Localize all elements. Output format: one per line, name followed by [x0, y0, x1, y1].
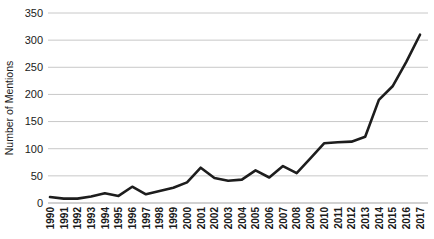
- x-tick-label: 2016: [401, 207, 412, 230]
- x-tick-label: 1994: [100, 207, 111, 230]
- x-tick-label: 2010: [319, 207, 330, 230]
- x-tick-label: 2004: [237, 207, 248, 230]
- data-line-series: [50, 35, 420, 199]
- x-tick-label: 2011: [333, 207, 344, 229]
- x-tick-label: 1996: [127, 207, 138, 230]
- chart-canvas: 0501001502002503003501990199119921993199…: [0, 0, 434, 239]
- y-tick-label: 150: [25, 115, 43, 127]
- x-tick-label: 2002: [209, 207, 220, 230]
- x-tick-label: 2015: [387, 207, 398, 230]
- x-tick-label: 2005: [250, 207, 261, 230]
- x-tick-label: 2013: [360, 207, 371, 230]
- x-tick-label: 1993: [86, 207, 97, 230]
- x-tick-label: 1990: [45, 207, 56, 230]
- x-tick-label: 1992: [72, 207, 83, 230]
- y-axis-title: Number of Mentions: [3, 61, 15, 156]
- x-tick-label: 2017: [415, 207, 426, 230]
- x-tick-label: 2009: [305, 207, 316, 230]
- x-tick-label: 1997: [141, 207, 152, 230]
- x-tick-label: 1995: [113, 207, 124, 230]
- x-tick-label: 2001: [196, 207, 207, 230]
- x-tick-label: 2012: [346, 207, 357, 230]
- mentions-line-chart: 0501001502002503003501990199119921993199…: [0, 0, 434, 239]
- x-tick-label: 2003: [223, 207, 234, 230]
- y-tick-label: 50: [31, 170, 43, 182]
- y-tick-label: 300: [25, 34, 43, 46]
- y-tick-label: 0: [37, 197, 43, 209]
- x-tick-label: 1991: [59, 207, 70, 230]
- x-tick-label: 2014: [374, 207, 385, 230]
- y-tick-label: 250: [25, 61, 43, 73]
- y-tick-label: 350: [25, 7, 43, 19]
- y-tick-label: 100: [25, 143, 43, 155]
- x-tick-label: 1998: [154, 207, 165, 230]
- y-tick-label: 200: [25, 88, 43, 100]
- x-tick-label: 2007: [278, 207, 289, 230]
- x-tick-label: 1999: [168, 207, 179, 230]
- x-tick-label: 2006: [264, 207, 275, 230]
- x-tick-label: 2008: [291, 207, 302, 230]
- x-tick-label: 2000: [182, 207, 193, 230]
